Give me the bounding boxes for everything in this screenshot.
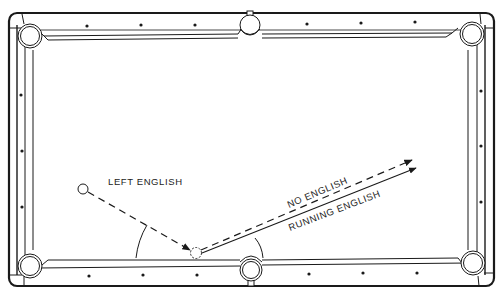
reflection-angle-arc	[255, 238, 263, 258]
pocket-top-left	[10, 14, 42, 48]
top-right-cushion	[262, 28, 458, 34]
pocket-bottom-middle	[240, 256, 262, 286]
rails	[17, 25, 485, 275]
bottom-right-cushion	[262, 258, 462, 263]
label-left-english: LEFT ENGLISH	[108, 176, 183, 187]
no-english-path	[201, 160, 412, 250]
table-frame	[9, 13, 494, 286]
cue-ball-start	[78, 184, 88, 194]
pocket-bottom-right	[461, 251, 494, 286]
pocket-top-middle	[240, 11, 260, 35]
pool-table-diagram: LEFT ENGLISH NO ENGLISH RUNNING ENGLISH	[0, 0, 503, 297]
pocket-top-right	[460, 14, 494, 46]
incidence-angle-arc	[136, 225, 147, 258]
approach-path	[88, 192, 190, 250]
bottom-left-cushion	[42, 260, 240, 265]
pocket-bottom-left	[10, 254, 42, 286]
pockets	[10, 11, 494, 286]
cue-ball-contact	[191, 248, 202, 259]
running-english-path	[202, 168, 416, 253]
top-left-cushion	[38, 28, 242, 36]
rail-diamonds	[19, 20, 482, 277]
